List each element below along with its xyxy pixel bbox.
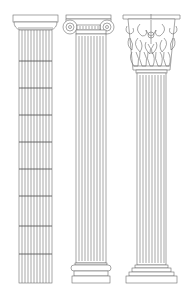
- corinthian-column: [123, 14, 180, 283]
- doric-column: [13, 15, 58, 283]
- ionic-column: [63, 15, 114, 283]
